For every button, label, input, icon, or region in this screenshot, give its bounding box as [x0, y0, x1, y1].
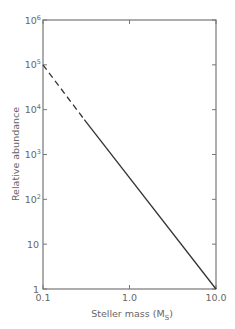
solid-data-line — [84, 120, 216, 289]
x-axis-title: Steller mass (MS) — [91, 308, 173, 322]
x-tick-label: 1.0 — [122, 292, 137, 303]
data-lines — [43, 65, 216, 289]
chart: 110102103104105106 0.11.010.0 Relative a… — [0, 0, 235, 329]
x-tick-label: 10.0 — [205, 292, 226, 303]
y-tick-label: 106 — [25, 14, 41, 26]
dashed-extrapolation-line — [43, 65, 84, 120]
y-axis-title: Relative abundance — [10, 107, 21, 201]
y-tick-label: 103 — [25, 148, 41, 160]
y-tick-label: 105 — [25, 58, 41, 70]
x-tick-label: 0.1 — [35, 292, 50, 303]
y-tick-label: 104 — [25, 103, 41, 115]
y-tick-label: 102 — [25, 193, 41, 205]
y-tick-label: 10 — [27, 239, 39, 250]
x-axis-ticks: 0.11.010.0 — [35, 20, 226, 303]
plot-frame — [43, 20, 216, 289]
